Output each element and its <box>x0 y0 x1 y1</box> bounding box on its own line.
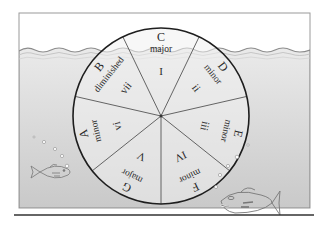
segment-quality-c: major <box>150 44 173 54</box>
chord-wheel-diagram: CmajorIDminoriiEminoriiiFminorIVGmajorVA… <box>0 0 327 246</box>
bubble-icon <box>226 164 229 167</box>
bubble-icon <box>65 164 69 168</box>
segment-note-c: C <box>157 30 165 44</box>
segment-numeral-c: I <box>159 65 163 77</box>
bubble-icon <box>42 140 45 143</box>
diagram-canvas: CmajorIDminoriiEminoriiiFminorIVGmajorVA… <box>0 0 327 246</box>
bubble-icon <box>53 147 56 150</box>
bubble-icon <box>247 144 249 146</box>
bubble-icon <box>214 185 217 188</box>
bubble-icon <box>60 154 63 157</box>
chord-wheel: CmajorIDminoriiEminoriiiFminorIVGmajorVA… <box>73 28 249 204</box>
bubble-icon <box>218 173 221 176</box>
bubble-icon <box>235 155 239 159</box>
bubble-icon <box>33 136 35 138</box>
wheel-center-dot <box>160 115 163 118</box>
